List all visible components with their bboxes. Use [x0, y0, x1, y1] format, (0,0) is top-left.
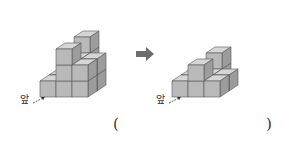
unit-cube — [72, 59, 97, 81]
front-direction-label-before: 앞 — [20, 95, 46, 105]
answer-blank-close: ) — [266, 115, 272, 133]
pointer-arrow-icon — [168, 96, 182, 104]
front-label-text: 앞 — [156, 94, 165, 105]
front-label-text: 앞 — [20, 94, 29, 105]
pointer-arrow-icon — [32, 96, 46, 104]
answer-blank-open: ( — [113, 115, 119, 133]
front-direction-label-after: 앞 — [156, 95, 182, 105]
unit-cube — [204, 75, 229, 97]
